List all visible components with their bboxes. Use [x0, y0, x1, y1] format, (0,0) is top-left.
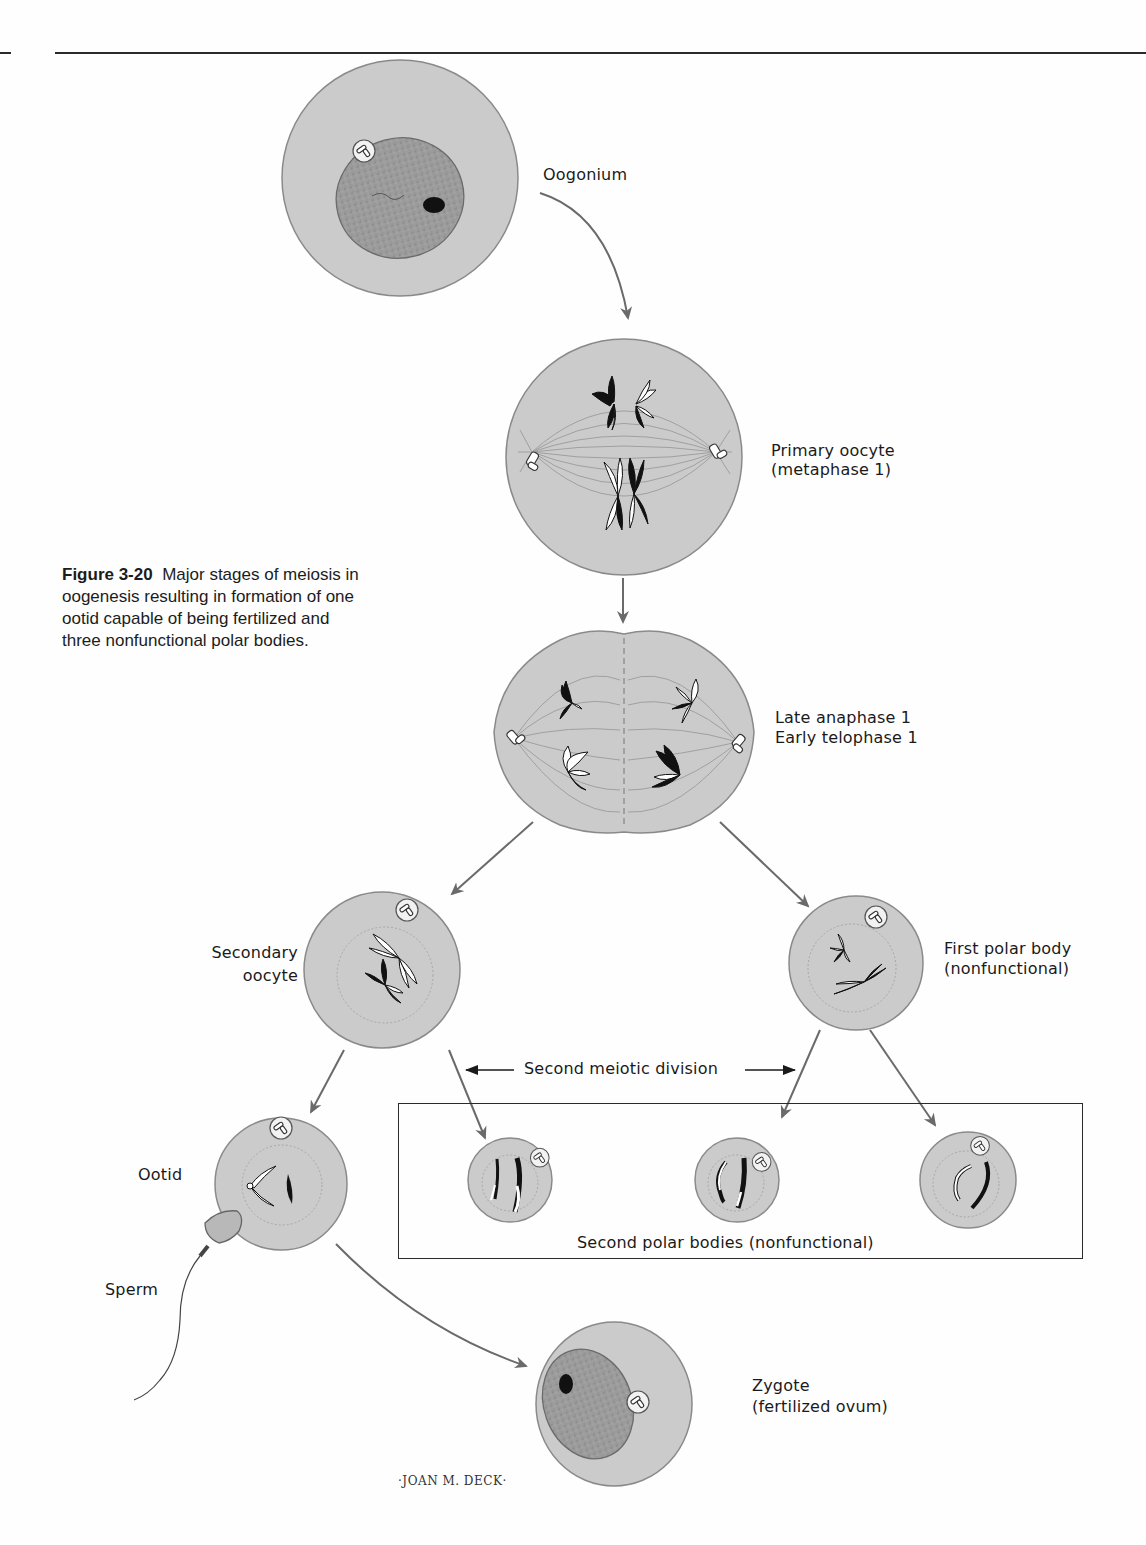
anaphase-cell	[494, 631, 754, 833]
caption-line-4: three nonfunctional polar bodies.	[62, 631, 309, 650]
label-sperm: Sperm	[105, 1280, 158, 1300]
primary-oocyte-cell	[506, 339, 742, 575]
label-secondary: Secondary	[180, 943, 298, 963]
label-secondary-oocyte: oocyte	[180, 966, 298, 986]
oogonium-cell	[282, 60, 518, 296]
label-second-meiotic-division: Second meiotic division	[524, 1059, 718, 1079]
label-zygote: Zygote	[752, 1376, 810, 1396]
label-oogonium: Oogonium	[543, 165, 627, 185]
secondary-oocyte-cell	[304, 892, 460, 1048]
label-first-polar-body: First polar body	[944, 939, 1071, 959]
label-primary-oocyte: Primary oocyte	[771, 441, 895, 461]
sperm-cell	[134, 1211, 242, 1400]
first-polar-body-cell	[789, 896, 923, 1030]
caption-line-1: Major stages of meiosis in	[162, 565, 359, 584]
caption-line-2: oogenesis resulting in formation of one	[62, 587, 354, 606]
arrow-anaphase-to-secondary-oocyte	[452, 822, 533, 894]
arrow-oogonium-to-primary	[540, 193, 628, 318]
figure-number: Figure 3-20	[62, 565, 153, 584]
meiosis-diagram	[0, 0, 1146, 1545]
figure-page: Oogonium Primary oocyte (metaphase 1) La…	[0, 0, 1146, 1545]
arrow-ootid-to-zygote	[336, 1244, 526, 1366]
label-early-telophase: Early telophase 1	[775, 728, 918, 748]
label-late-anaphase: Late anaphase 1	[775, 708, 911, 728]
label-first-polar-body-note: (nonfunctional)	[944, 959, 1069, 979]
arrow-secondary-to-ootid	[311, 1050, 344, 1112]
label-fertilized-ovum: (fertilized ovum)	[752, 1397, 888, 1417]
arrow-anaphase-to-first-polar-body	[720, 822, 808, 906]
caption-line-3: ootid capable of being fertilized and	[62, 609, 329, 628]
artist-signature: ·JOAN M. DECK·	[398, 1474, 507, 1488]
figure-caption: Figure 3-20 Major stages of meiosis in o…	[62, 564, 392, 652]
label-second-polar-bodies: Second polar bodies (nonfunctional)	[577, 1233, 874, 1253]
zygote-cell	[528, 1322, 692, 1486]
label-ootid: Ootid	[138, 1165, 182, 1185]
label-primary-oocyte-phase: (metaphase 1)	[771, 460, 891, 480]
